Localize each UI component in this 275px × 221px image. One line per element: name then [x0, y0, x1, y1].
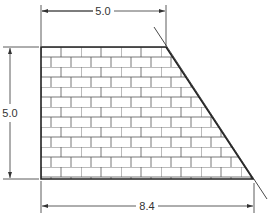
bottom-dimension-label: 8.4 [139, 200, 154, 212]
brick-hatch [41, 47, 254, 180]
top-dimension-label: 5.0 [95, 5, 110, 17]
trapezoid-brick-drawing: 5.0 5.0 8.4 [0, 0, 275, 221]
top-dimension: 5.0 [41, 5, 166, 46]
left-dimension: 5.0 [2, 47, 39, 179]
bottom-dimension: 8.4 [41, 181, 254, 213]
left-dimension-label: 5.0 [2, 107, 17, 119]
